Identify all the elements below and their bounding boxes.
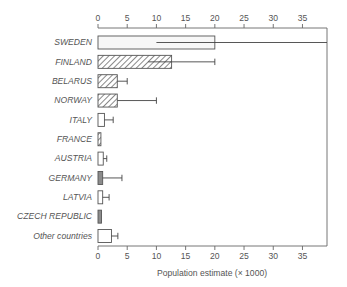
x-tick-label-top: 5 xyxy=(125,13,130,23)
x-tick-label-bottom: 35 xyxy=(298,251,308,261)
category-label: FRANCE xyxy=(57,134,93,144)
bar-row xyxy=(98,210,102,223)
error-bar xyxy=(103,194,109,200)
x-tick-label-top: 10 xyxy=(152,13,162,23)
bar xyxy=(98,94,117,107)
category-label: NORWAY xyxy=(54,95,93,105)
x-tick-label-bottom: 30 xyxy=(268,251,278,261)
x-tick-label-top: 0 xyxy=(96,13,101,23)
bar-row xyxy=(98,152,107,165)
category-labels: SWEDENFINLANDBELARUSNORWAYITALYFRANCEAUS… xyxy=(17,37,93,241)
x-tick-label-top: 35 xyxy=(298,13,308,23)
error-bar xyxy=(103,175,122,181)
x-axis-top: 05101520253035 xyxy=(96,13,327,28)
bar-row xyxy=(98,36,327,49)
category-label: LATVIA xyxy=(63,192,92,202)
category-label: CZECH REPUBLIC xyxy=(17,211,93,221)
x-tick-label-bottom: 0 xyxy=(96,251,101,261)
x-tick-label-bottom: 5 xyxy=(125,251,130,261)
x-tick-label-bottom: 20 xyxy=(210,251,220,261)
x-axis-title: Population estimate (× 1000) xyxy=(157,268,267,278)
category-label: AUSTRIA xyxy=(54,153,93,163)
bar-row xyxy=(98,75,127,88)
population-bar-chart: 05101520253035 05101520253035 SWEDENFINL… xyxy=(0,0,347,287)
category-label: BELARUS xyxy=(52,76,92,86)
error-bar xyxy=(104,117,113,123)
error-bar xyxy=(117,78,127,84)
bar xyxy=(98,210,102,223)
bar-row xyxy=(98,113,113,126)
bar-row xyxy=(98,55,215,68)
bar xyxy=(98,133,101,146)
bar-row xyxy=(98,94,156,107)
error-bar xyxy=(117,97,156,103)
x-tick-label-bottom: 25 xyxy=(239,251,249,261)
category-label: ITALY xyxy=(70,115,94,125)
bar xyxy=(98,230,111,243)
bars-group xyxy=(98,36,327,243)
error-bar xyxy=(111,233,117,239)
category-label: FINLAND xyxy=(55,57,92,67)
chart-canvas: 05101520253035 05101520253035 SWEDENFINL… xyxy=(0,0,347,287)
bar xyxy=(98,113,104,126)
bar xyxy=(98,171,103,184)
category-label: GERMANY xyxy=(49,173,94,183)
bar-row xyxy=(98,191,109,204)
bar xyxy=(98,152,103,165)
x-tick-label-bottom: 10 xyxy=(152,251,162,261)
bar-row xyxy=(98,133,101,146)
x-tick-label-top: 25 xyxy=(239,13,249,23)
bar-row xyxy=(98,230,118,243)
x-tick-label-top: 15 xyxy=(181,13,191,23)
bar xyxy=(98,191,103,204)
bar-row xyxy=(98,171,122,184)
x-tick-label-top: 20 xyxy=(210,13,220,23)
category-label: SWEDEN xyxy=(54,37,93,47)
category-label: Other countries xyxy=(33,231,92,241)
x-tick-label-top: 30 xyxy=(268,13,278,23)
error-bar xyxy=(103,155,107,161)
x-tick-label-bottom: 15 xyxy=(181,251,191,261)
bar xyxy=(98,75,117,88)
